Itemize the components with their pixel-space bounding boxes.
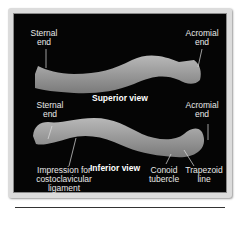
leader-acromial-superior <box>198 49 202 67</box>
horizontal-rule <box>15 207 225 208</box>
figure-panel: Sternal end Acromial end Superior view S… <box>13 13 227 193</box>
label-trapezoid-line: Trapezoid line <box>182 166 226 184</box>
label-sternal-end-superior: Sternal end <box>24 29 64 47</box>
clavicle-inferior <box>33 118 204 157</box>
leader-costoclavicular <box>69 138 76 166</box>
inferior-view-title: Inferior view <box>90 163 140 173</box>
label-conoid-tubercle: Conoid tubercle <box>144 166 184 184</box>
label-acromial-end-inferior: Acromial end <box>180 101 224 119</box>
clavicle-superior <box>35 56 201 94</box>
label-sternal-end-inferior: Sternal end <box>30 101 70 119</box>
superior-view-title: Superior view <box>92 93 148 103</box>
figure-frame: Sternal end Acromial end Superior view S… <box>8 8 232 198</box>
label-acromial-end-superior: Acromial end <box>180 29 224 47</box>
